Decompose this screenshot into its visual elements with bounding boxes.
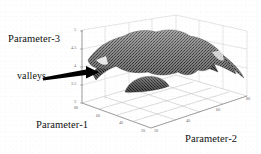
z-axis-label: Parameter-3 [8, 33, 60, 44]
y-tick-80: 80 [246, 97, 250, 101]
x-tick-20: 20 [141, 129, 145, 133]
z-tick-3: 3 [74, 100, 76, 104]
x-axis-spine [82, 103, 151, 128]
z-tick-4-5: 4.5 [71, 46, 76, 50]
valleys-arrow [43, 66, 99, 81]
x-tick-40: 40 [119, 121, 123, 125]
x-tick-60: 60 [96, 114, 100, 118]
y-tick-20: 20 [154, 129, 158, 133]
z-tick-5: 5 [74, 28, 76, 32]
y-axis-label: Parameter-2 [185, 133, 237, 144]
y-tick-40: 40 [186, 119, 190, 123]
x-axis-label: Parameter-1 [36, 119, 88, 130]
valleys-annotation-label: valleys [17, 70, 46, 81]
y-axis-spine [151, 96, 247, 128]
figure-canvas: 5 4.5 4 3.5 3 80 60 40 20 20 40 60 80 Pa… [0, 0, 261, 154]
z-axis-ticks [80, 31, 83, 103]
y-tick-60: 60 [216, 108, 220, 112]
z-tick-3-5: 3.5 [71, 82, 76, 86]
small-dome-surface [125, 76, 169, 92]
x-tick-80: 80 [74, 106, 78, 110]
z-tick-4: 4 [74, 64, 76, 68]
